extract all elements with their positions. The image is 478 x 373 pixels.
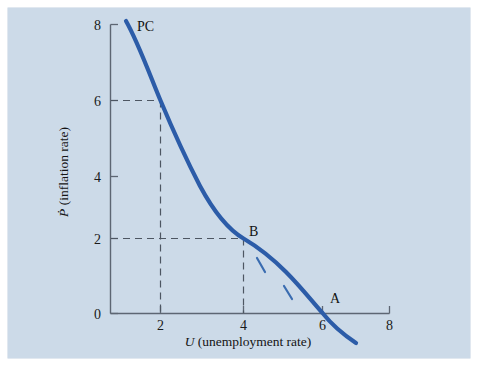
y-tick-label-6: 6 bbox=[94, 94, 101, 109]
point-label-b: B bbox=[249, 224, 258, 239]
phillips-curve-figure: 8 6 4 2 0 2 4 6 8 bbox=[0, 0, 478, 373]
y-tick-label-4: 4 bbox=[94, 170, 101, 185]
x-tick-label-2: 2 bbox=[157, 318, 164, 333]
y-tick-label-8: 8 bbox=[94, 18, 101, 33]
y-axis-title: Ṗ (inflation rate) bbox=[56, 127, 71, 218]
annotations-group: PC B A bbox=[137, 19, 341, 306]
axes-group bbox=[111, 25, 390, 314]
x-axis-title: U (unemployment rate) bbox=[185, 334, 312, 349]
phillips-curve-chart: 8 6 4 2 0 2 4 6 8 bbox=[0, 0, 478, 373]
guide-lines-group bbox=[111, 101, 244, 314]
curve-label-pc: PC bbox=[137, 19, 154, 34]
hatch-mark-2 bbox=[284, 286, 292, 299]
hatch-mark-1 bbox=[257, 258, 265, 272]
y-axis-title-var: Ṗ bbox=[56, 209, 71, 218]
x-tick-label-8: 8 bbox=[386, 318, 393, 333]
y-axis-title-text: (inflation rate) bbox=[56, 127, 71, 205]
hatch-marks-group bbox=[257, 258, 292, 299]
x-tick-label-6: 6 bbox=[319, 318, 326, 333]
y-axis-tick-labels: 8 6 4 2 0 bbox=[94, 18, 101, 322]
x-axis-tick-labels: 2 4 6 8 bbox=[157, 318, 393, 333]
x-axis-ticks bbox=[161, 306, 390, 314]
y-axis-ticks bbox=[111, 25, 119, 314]
point-label-a: A bbox=[330, 291, 341, 306]
y-tick-label-2: 2 bbox=[94, 232, 101, 247]
y-tick-label-0: 0 bbox=[94, 307, 101, 322]
x-axis-title-text: (unemployment rate) bbox=[198, 334, 312, 349]
x-tick-label-4: 4 bbox=[240, 318, 247, 333]
